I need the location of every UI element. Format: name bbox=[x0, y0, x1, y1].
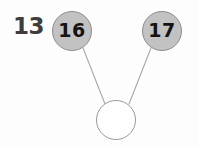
part-right-value: 17 bbox=[142, 21, 182, 40]
connector-right-line bbox=[129, 48, 151, 104]
part-left-value: 16 bbox=[52, 21, 92, 40]
whole-answer-circle[interactable] bbox=[97, 101, 136, 140]
connector-left-line bbox=[83, 48, 105, 104]
problem-number: 13 bbox=[13, 13, 44, 39]
worksheet-item: 13 16 17 bbox=[0, 0, 198, 146]
